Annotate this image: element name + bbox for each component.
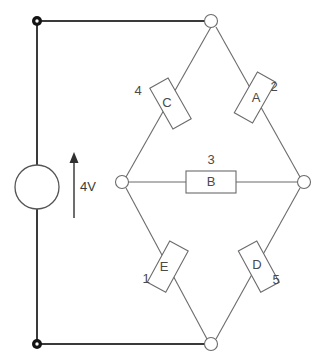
node-left[interactable]: [116, 176, 129, 189]
resistor-d-value: 5: [272, 272, 279, 287]
resistor-b-value: 3: [207, 152, 214, 167]
resistor-d-letter: D: [252, 257, 261, 272]
node-top[interactable]: [205, 15, 218, 28]
resistor-a-group[interactable]: A 2: [234, 72, 277, 123]
circuit-svg: 4V C 4: [0, 0, 325, 364]
circuit-diagram-canvas: 4V C 4: [0, 0, 325, 364]
resistor-c-value: 4: [134, 83, 141, 98]
resistor-e-value: 1: [142, 271, 149, 286]
resistor-e-group[interactable]: E 1: [142, 241, 188, 292]
resistor-a-letter: A: [252, 90, 261, 105]
voltage-arrow-head-icon: [70, 152, 79, 163]
resistor-a-value: 2: [270, 79, 277, 94]
resistor-c-group[interactable]: C 4: [134, 78, 191, 129]
terminal-dot-bottom-left-center: [35, 342, 38, 345]
resistor-e-letter: E: [160, 259, 169, 274]
voltage-source-circle[interactable]: [15, 165, 59, 209]
voltage-source[interactable]: [15, 165, 59, 209]
node-bottom[interactable]: [205, 338, 218, 351]
resistor-c-letter: C: [162, 95, 171, 110]
resistor-b-letter: B: [207, 174, 216, 189]
voltage-source-label: 4V: [80, 179, 96, 194]
node-right[interactable]: [298, 176, 311, 189]
voltage-arrow-group: 4V: [70, 152, 97, 218]
resistor-d-group[interactable]: D 5: [238, 241, 279, 292]
resistor-b-group[interactable]: B 3: [186, 152, 236, 193]
terminal-dot-top-left-center: [35, 19, 38, 22]
